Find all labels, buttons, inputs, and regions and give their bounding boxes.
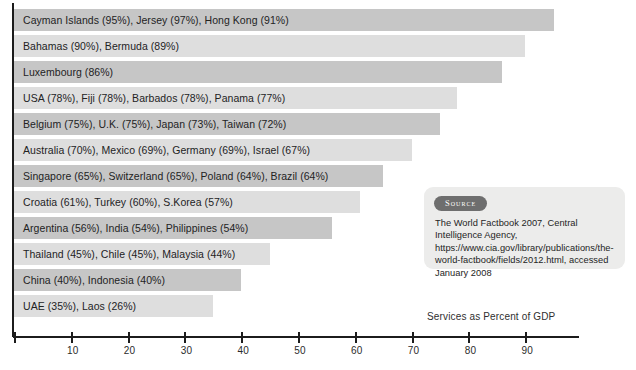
bar-label: Bahamas (90%), Bermuda (89%) <box>14 40 179 52</box>
x-axis-tick-label: 20 <box>110 345 150 356</box>
x-axis-tick-label: 90 <box>507 345 547 356</box>
x-axis-tick <box>71 332 73 343</box>
source-citation-text: The World Factbook 2007, Central Intelli… <box>435 217 618 279</box>
x-axis-tick-label: 50 <box>280 345 320 356</box>
bar-label: China (40%), Indonesia (40%) <box>14 274 165 286</box>
x-axis-tick <box>128 332 130 343</box>
x-axis-tick-label: 10 <box>53 345 93 356</box>
bar-label: Argentina (56%), India (54%), Philippine… <box>14 222 248 234</box>
plot-area: Cayman Islands (95%), Jersey (97%), Hong… <box>0 0 636 370</box>
bar-label: Luxembourg (86%) <box>14 66 113 78</box>
x-axis-origin-tick <box>14 332 16 343</box>
x-axis-tick <box>184 332 186 343</box>
x-axis-tick <box>468 332 470 343</box>
x-axis-tick <box>412 332 414 343</box>
bar-row: Luxembourg (86%) <box>14 61 502 83</box>
bar-row: Argentina (56%), India (54%), Philippine… <box>14 217 332 239</box>
bar-label: Cayman Islands (95%), Jersey (97%), Hong… <box>14 14 289 26</box>
x-axis-caption: Services as Percent of GDP <box>427 311 555 322</box>
x-axis-tick-label: 70 <box>394 345 434 356</box>
bar-row: Thailand (45%), Chile (45%), Malaysia (4… <box>14 243 270 265</box>
x-axis-tick-label: 30 <box>166 345 206 356</box>
bar-label: Belgium (75%), U.K. (75%), Japan (73%), … <box>14 118 286 130</box>
bar-label: Croatia (61%), Turkey (60%), S.Korea (57… <box>14 196 233 208</box>
bar-row: Cayman Islands (95%), Jersey (97%), Hong… <box>14 9 554 31</box>
x-axis-tick <box>241 332 243 343</box>
bar-row: USA (78%), Fiji (78%), Barbados (78%), P… <box>14 87 457 109</box>
bar-row: Australia (70%), Mexico (69%), Germany (… <box>14 139 412 161</box>
bar-row: UAE (35%), Laos (26%) <box>14 295 213 317</box>
x-axis-tick-label: 40 <box>223 345 263 356</box>
x-axis-line <box>13 336 579 338</box>
bar-label: Australia (70%), Mexico (69%), Germany (… <box>14 144 310 156</box>
x-axis-tick <box>525 332 527 343</box>
bar-label: Thailand (45%), Chile (45%), Malaysia (4… <box>14 248 235 260</box>
bar-row: Bahamas (90%), Bermuda (89%) <box>14 35 525 57</box>
bar-row: China (40%), Indonesia (40%) <box>14 269 241 291</box>
bar-row: Croatia (61%), Turkey (60%), S.Korea (57… <box>14 191 360 213</box>
x-axis-tick <box>298 332 300 343</box>
bar-label: USA (78%), Fiji (78%), Barbados (78%), P… <box>14 92 285 104</box>
bar-row: Singapore (65%), Switzerland (65%), Pola… <box>14 165 383 187</box>
services-percent-of-gdp-chart: Cayman Islands (95%), Jersey (97%), Hong… <box>0 0 636 370</box>
source-pill-label: Source <box>434 196 487 211</box>
source-box: Source The World Factbook 2007, Central … <box>424 187 625 269</box>
x-axis-tick-label: 80 <box>450 345 490 356</box>
x-axis-tick-label: 60 <box>337 345 377 356</box>
x-axis-tick <box>355 332 357 343</box>
bar-label: Singapore (65%), Switzerland (65%), Pola… <box>14 170 328 182</box>
bar-row: Belgium (75%), U.K. (75%), Japan (73%), … <box>14 113 440 135</box>
bar-label: UAE (35%), Laos (26%) <box>14 300 136 312</box>
